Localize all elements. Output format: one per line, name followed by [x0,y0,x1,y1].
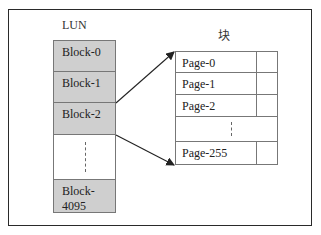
arrow-to-page-255-icon [116,135,174,165]
arrow-to-page-0-icon [116,52,174,103]
mapping-arrows [0,0,321,235]
